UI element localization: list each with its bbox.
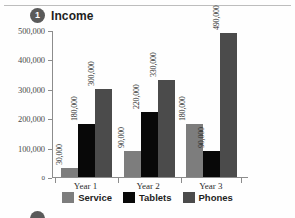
bar-value-label: 330,000 — [149, 52, 158, 77]
x-axis-separator — [181, 178, 182, 183]
bar-service-year-1: 30,000 — [61, 168, 78, 177]
x-axis-separator — [118, 178, 119, 183]
x-axis-label-year-1: Year 1 — [74, 181, 97, 191]
y-axis-tick — [48, 178, 52, 179]
bar-tablets-year-2: 220,000 — [141, 112, 158, 177]
next-section-number-badge — [30, 211, 45, 218]
bar-phones-year-1: 300,000 — [95, 89, 112, 177]
y-axis-tick-label: 0 — [42, 174, 45, 182]
legend-swatch-service — [62, 192, 74, 203]
legend-label-phones: Phones — [199, 192, 233, 203]
section-header: 1 Income — [30, 8, 94, 23]
legend-item-phones[interactable]: Phones — [183, 192, 233, 203]
x-axis-line — [52, 177, 248, 178]
y-axis-tick-label: 500,000 — [18, 26, 45, 36]
bar-series-container: 30,000180,000300,00090,000220,000330,000… — [53, 31, 248, 177]
x-axis-label-year-3: Year 3 — [199, 181, 222, 191]
x-axis-label-year-2: Year 2 — [136, 181, 159, 191]
bar-value-label: 220,000 — [132, 85, 141, 110]
legend-swatch-tablets — [123, 192, 135, 203]
y-axis-tick-label: 100,000 — [18, 144, 45, 154]
y-axis-tick — [48, 90, 52, 91]
legend-label-service: Service — [78, 192, 112, 203]
bar-service-year-2: 90,000 — [124, 151, 141, 177]
x-axis-separator — [241, 178, 242, 183]
legend-swatch-phones — [183, 192, 195, 203]
bar-value-label: 300,000 — [86, 61, 95, 86]
bar-value-label: 180,000 — [69, 96, 78, 121]
bar-value-label: 180,000 — [178, 96, 187, 121]
y-axis-tick-label: 400,000 — [18, 55, 45, 65]
y-axis-tick-label: 200,000 — [18, 114, 45, 124]
bar-value-label: 90,000 — [117, 127, 126, 148]
y-axis-tick — [48, 60, 52, 61]
y-axis-tick-label: 300,000 — [18, 85, 45, 95]
bar-value-label: 30,000 — [54, 144, 63, 165]
bar-phones-year-3: 490,000 — [220, 33, 237, 177]
chart-legend: ServiceTabletsPhones — [0, 192, 295, 203]
plot-area: 0100,000200,000300,000400,000500,000 30,… — [52, 31, 248, 178]
section-number-badge: 1 — [30, 8, 45, 23]
bar-value-label: 490,000 — [212, 5, 221, 30]
top-divider — [4, 5, 291, 6]
x-axis-separator — [55, 178, 56, 183]
legend-label-tablets: Tablets — [139, 192, 172, 203]
bar-tablets-year-1: 180,000 — [78, 124, 95, 177]
legend-item-service[interactable]: Service — [62, 192, 112, 203]
bar-value-label: 90,000 — [196, 127, 205, 148]
legend-item-tablets[interactable]: Tablets — [123, 192, 172, 203]
y-axis-tick — [48, 119, 52, 120]
chart-page: 1 Income 0100,000200,000300,000400,00050… — [0, 0, 295, 218]
y-axis-tick — [48, 31, 52, 32]
y-axis-tick — [48, 149, 52, 150]
bar-phones-year-2: 330,000 — [158, 80, 175, 177]
page-title: Income — [51, 9, 94, 23]
bar-tablets-year-3: 90,000 — [203, 151, 220, 177]
